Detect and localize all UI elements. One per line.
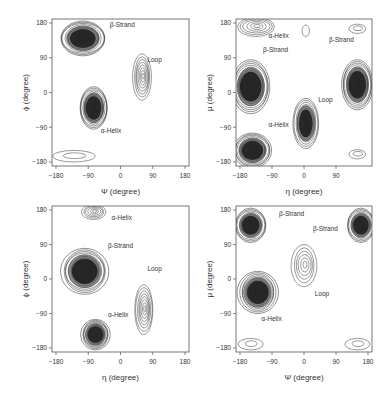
density-peak--helix-top bbox=[81, 204, 106, 219]
x-tick-label: 0 bbox=[119, 358, 123, 365]
density-peak--strand-right bbox=[342, 60, 373, 110]
figure: −180−90090180180900−90−180Ψ (degree)ϕ (d… bbox=[0, 0, 390, 403]
density-peak-loop bbox=[135, 285, 153, 335]
x-tick-label: 0 bbox=[302, 358, 306, 365]
panel-bottom-left: −180−90090180180900−90−180η (degree)ϕ (d… bbox=[21, 204, 191, 382]
x-tick-label: 90 bbox=[332, 358, 340, 365]
region-label--strand: β-Strand bbox=[110, 21, 135, 29]
y-axis-label: ϕ (degree) bbox=[21, 74, 30, 111]
x-tick-label: 90 bbox=[332, 172, 340, 179]
y-tick-label: −180 bbox=[32, 158, 47, 165]
x-tick-label: 0 bbox=[119, 172, 123, 179]
x-tick-label: 90 bbox=[149, 358, 157, 365]
density-peak-minor-top bbox=[349, 24, 366, 33]
y-axis-label: ϕ (degree) bbox=[21, 260, 30, 297]
x-tick-label: −90 bbox=[83, 172, 94, 179]
y-tick-label: 90 bbox=[40, 54, 48, 61]
region-label--helix: α-Helix bbox=[268, 32, 289, 39]
x-axis-label: η (degree) bbox=[286, 187, 323, 196]
x-axis-label: η (degree) bbox=[102, 373, 139, 382]
region-label-loop: Loop bbox=[147, 265, 162, 273]
y-axis-label: μ (degree) bbox=[205, 260, 214, 297]
region-label--strand: β-Strand bbox=[108, 242, 133, 250]
contour-layer bbox=[61, 204, 153, 350]
density-peak--helix-bottom bbox=[81, 319, 111, 350]
panel-top-left: −180−90090180180900−90−180Ψ (degree)ϕ (d… bbox=[21, 19, 191, 196]
density-peak-loop bbox=[293, 98, 319, 148]
y-axis-label: μ (degree) bbox=[205, 74, 214, 111]
contour-layer bbox=[53, 21, 152, 162]
contour-layer bbox=[236, 208, 375, 350]
x-axis-label: Ψ (degree) bbox=[101, 187, 140, 196]
region-label--helix: α-Helix bbox=[101, 127, 122, 134]
y-tick-label: −180 bbox=[216, 344, 231, 351]
density-peak--strand-left bbox=[231, 60, 269, 114]
region-label--strand: β-Strand bbox=[313, 225, 338, 233]
x-tick-label: −90 bbox=[83, 358, 94, 365]
y-tick-label: −180 bbox=[32, 344, 47, 351]
y-tick-label: −90 bbox=[220, 124, 231, 131]
region-label--helix: α-Helix bbox=[268, 121, 289, 128]
y-tick-label: 180 bbox=[36, 19, 47, 26]
y-tick-label: 180 bbox=[36, 206, 47, 213]
density-peak--helix bbox=[80, 87, 107, 129]
region-label--strand: β-Strand bbox=[263, 46, 288, 54]
y-tick-label: −180 bbox=[216, 158, 231, 165]
x-tick-label: −90 bbox=[266, 358, 277, 365]
density-peak-minor-top-mid bbox=[302, 25, 309, 37]
x-tick-label: 0 bbox=[302, 172, 306, 179]
y-tick-label: 90 bbox=[224, 54, 232, 61]
x-tick-label: −180 bbox=[49, 358, 64, 365]
region-label--strand: β-Strand bbox=[279, 210, 304, 218]
panel-bottom-right: −180−90090180180900−90−180Ψ (degree)μ (d… bbox=[205, 206, 374, 382]
density-peak--strand bbox=[61, 248, 109, 294]
region-label-loop: Loop bbox=[315, 290, 330, 298]
density-peak--strand-left bbox=[236, 208, 266, 243]
x-tick-label: −180 bbox=[233, 172, 248, 179]
x-tick-label: 180 bbox=[363, 358, 374, 365]
y-tick-label: −90 bbox=[36, 310, 47, 317]
density-peak-loop bbox=[291, 245, 317, 287]
x-tick-label: 180 bbox=[180, 358, 191, 365]
region-label--helix: α-Helix bbox=[112, 214, 133, 221]
density-peak--strand bbox=[61, 21, 105, 56]
y-tick-label: 90 bbox=[40, 241, 48, 248]
y-tick-label: −90 bbox=[220, 310, 231, 317]
region-label--strand: β-Strand bbox=[329, 36, 354, 44]
y-tick-label: 180 bbox=[220, 19, 231, 26]
x-axis-label: Ψ (degree) bbox=[284, 373, 323, 382]
panel-top-right: −180−90090180900−90−180η (degree)μ (degr… bbox=[205, 17, 373, 196]
x-tick-label: −90 bbox=[266, 172, 277, 179]
density-peak--strand-right bbox=[348, 208, 375, 243]
density-peak--helix bbox=[237, 271, 278, 313]
y-tick-label: 180 bbox=[220, 206, 231, 213]
x-tick-label: 90 bbox=[149, 172, 157, 179]
region-label-loop: Loop bbox=[147, 56, 162, 64]
y-tick-label: 0 bbox=[43, 89, 47, 96]
density-peak--helix-bottom bbox=[233, 133, 271, 168]
y-tick-label: 0 bbox=[227, 275, 231, 282]
y-tick-label: −90 bbox=[36, 124, 47, 131]
density-peak-minor bbox=[53, 150, 95, 162]
y-tick-label: 90 bbox=[224, 241, 232, 248]
density-peak-minor-bottom-left bbox=[238, 338, 263, 350]
x-tick-label: 180 bbox=[180, 172, 191, 179]
y-tick-label: 0 bbox=[43, 275, 47, 282]
y-tick-label: 0 bbox=[227, 89, 231, 96]
density-peak-minor-bottom-right bbox=[349, 150, 366, 159]
density-peak-minor-bottom-right bbox=[345, 338, 370, 350]
x-tick-label: −180 bbox=[233, 358, 248, 365]
region-label--helix: α-Helix bbox=[108, 311, 129, 318]
region-label--helix: α-Helix bbox=[261, 315, 282, 322]
x-tick-label: −180 bbox=[49, 172, 64, 179]
region-label-loop: Loop bbox=[318, 96, 333, 104]
